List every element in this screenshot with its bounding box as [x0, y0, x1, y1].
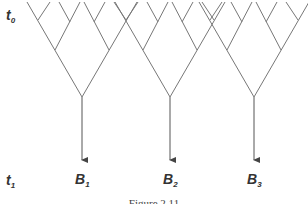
time-label-t1: t1 — [6, 172, 16, 190]
time-label-t0: t0 — [6, 7, 16, 25]
outcome-label-b3: B3 — [247, 171, 262, 189]
tree-2 — [115, 2, 225, 160]
branching-diagram: t0 t1 B1 B2 B3 Figure 2.11 — [0, 0, 308, 204]
tree-1 — [27, 2, 137, 160]
figure-caption: Figure 2.11 — [129, 197, 179, 204]
outcome-label-b2: B2 — [163, 171, 178, 189]
tree-3 — [199, 2, 308, 160]
outcome-label-b1: B1 — [75, 171, 90, 189]
